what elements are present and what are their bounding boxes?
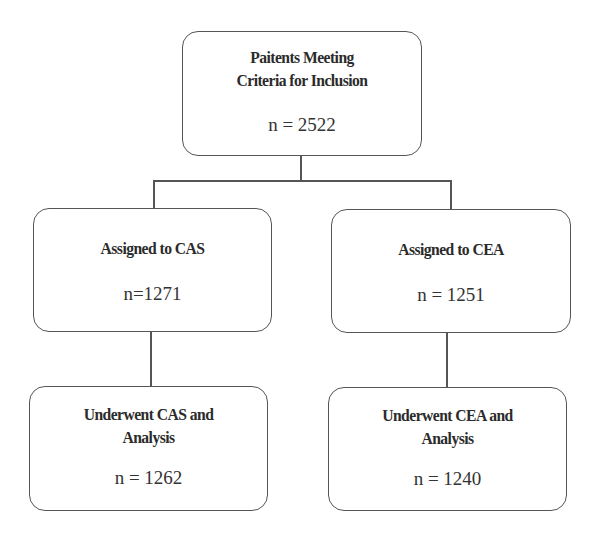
node-title: Paitents Meeting Criteria for Inclusion (193, 46, 412, 92)
node-assigned-cas: Assigned to CAS n=1271 (33, 208, 272, 332)
node-count: n = 1240 (329, 468, 566, 490)
node-title: Assigned to CEA (342, 238, 561, 261)
node-title-line: Analysis (338, 427, 556, 450)
node-count: n = 1262 (30, 467, 267, 489)
node-title-line: Analysis (39, 426, 257, 449)
node-underwent-cea: Underwent CEA and Analysis n = 1240 (328, 387, 567, 511)
node-count: n = 2522 (183, 114, 421, 136)
node-title: Underwent CEA and Analysis (338, 404, 556, 450)
node-title-line: Underwent CAS and (39, 403, 257, 426)
connector-cea-to-underwent (446, 331, 448, 387)
node-underwent-cas: Underwent CAS and Analysis n = 1262 (29, 386, 268, 511)
connector-inclusion-stem (300, 155, 302, 182)
node-count: n = 1251 (332, 284, 570, 306)
node-inclusion-criteria: Paitents Meeting Criteria for Inclusion … (182, 31, 422, 156)
connector-to-assigned-cea (450, 180, 452, 209)
connector-to-assigned-cas (153, 180, 155, 209)
connector-cas-to-underwent (150, 331, 152, 387)
node-title-line: Assigned to CAS (43, 237, 261, 260)
node-title-line: Underwent CEA and (338, 404, 556, 427)
node-title: Underwent CAS and Analysis (39, 403, 257, 449)
node-title-line: Assigned to CEA (342, 238, 561, 261)
connector-branch-bar (153, 180, 452, 182)
node-assigned-cea: Assigned to CEA n = 1251 (331, 209, 571, 333)
node-title-line: Criteria for Inclusion (193, 69, 412, 92)
node-count: n=1271 (34, 283, 271, 305)
node-title-line: Paitents Meeting (193, 46, 412, 69)
node-title: Assigned to CAS (43, 237, 261, 260)
